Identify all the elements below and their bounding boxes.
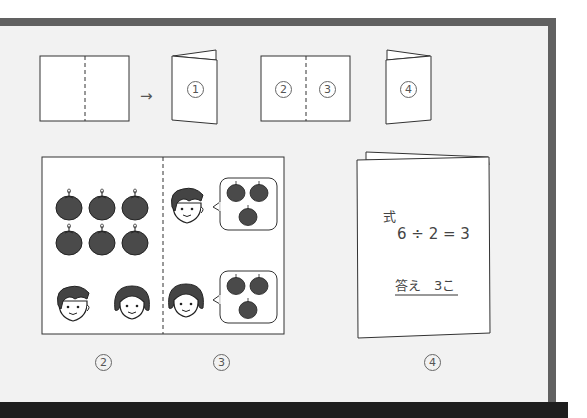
- page-number-1: 1: [187, 80, 204, 98]
- page-number-4: 4: [400, 80, 417, 98]
- page-number-3: 3: [319, 80, 336, 98]
- caption-page-3: 3: [213, 353, 230, 371]
- bottom-shadow-bar: [0, 402, 568, 418]
- caption-page-4: 4: [424, 353, 441, 371]
- formula-label: 式: [383, 206, 396, 225]
- answer-text: 答え 3こ: [395, 275, 455, 294]
- page-number-2: 2: [275, 80, 292, 98]
- illustration-panel: [42, 157, 284, 334]
- equation: 6 ÷ 2 = 3: [397, 225, 470, 243]
- unfolded-sheet: [40, 56, 129, 121]
- booklet-diagram: [0, 0, 587, 418]
- caption-page-2: 2: [95, 353, 112, 371]
- arrow-icon: →: [140, 87, 153, 105]
- answer-booklet: [357, 152, 490, 338]
